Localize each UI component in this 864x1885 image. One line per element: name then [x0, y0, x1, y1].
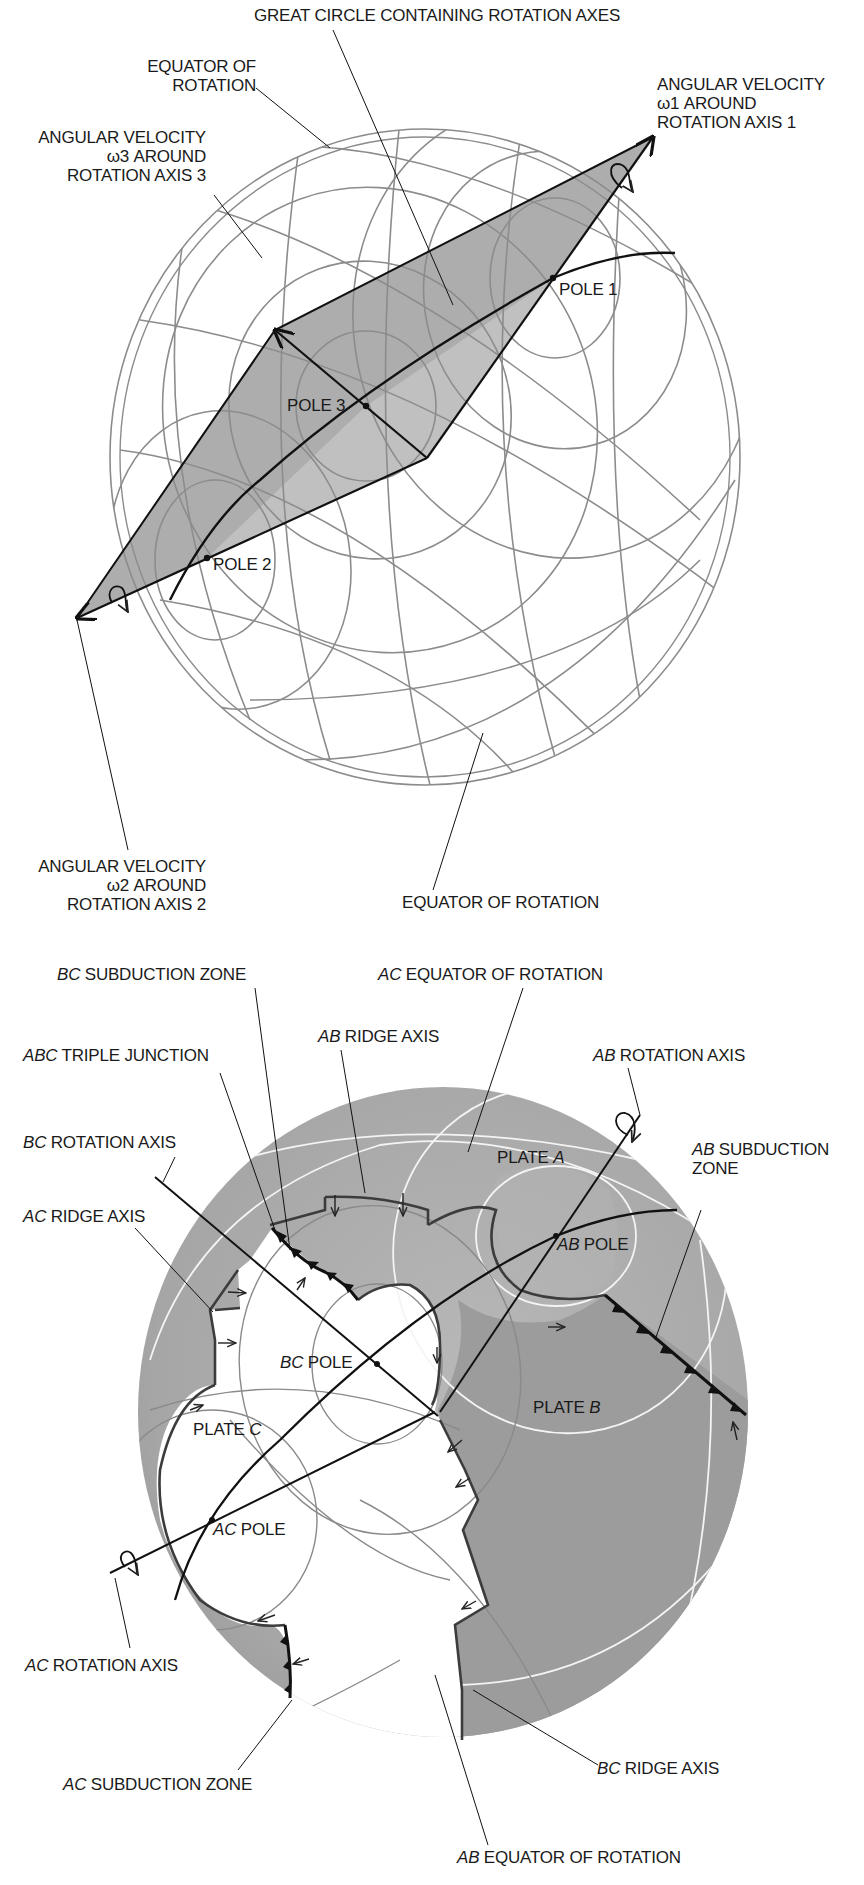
label-plate-c: PLATE C: [193, 1420, 261, 1439]
label-ab-rotation-axis: AB ROTATION AXIS: [593, 1046, 745, 1065]
label-omega1: ANGULAR VELOCITY ω1 AROUND ROTATION AXIS…: [657, 75, 825, 132]
label-abc-triple-junction: ABC TRIPLE JUNCTION: [23, 1046, 209, 1065]
label-great-circle: GREAT CIRCLE CONTAINING ROTATION AXES: [254, 6, 620, 25]
label-ac-equator-of-rotation: AC EQUATOR OF ROTATION: [378, 965, 603, 984]
label-equator-of-rotation-top: EQUATOR OF ROTATION: [118, 57, 256, 95]
label-pole2: POLE 2: [213, 555, 271, 574]
label-ab-subduction-zone: AB SUBDUCTION ZONE: [692, 1140, 829, 1178]
label-bc-rotation-axis: BC ROTATION AXIS: [23, 1133, 176, 1152]
diagram-canvas: [0, 0, 864, 1885]
label-ac-ridge-axis: AC RIDGE AXIS: [23, 1207, 145, 1226]
label-omega3: ANGULAR VELOCITY ω3 AROUND ROTATION AXIS…: [6, 128, 206, 185]
pole2-dot: [204, 555, 210, 561]
label-ac-rotation-axis: AC ROTATION AXIS: [25, 1656, 178, 1675]
label-ab-ridge-axis: AB RIDGE AXIS: [318, 1027, 439, 1046]
label-pole3: POLE 3: [287, 396, 345, 415]
label-plate-b: PLATE B: [533, 1398, 600, 1417]
label-ac-subduction-zone: AC SUBDUCTION ZONE: [63, 1775, 252, 1794]
label-equator-of-rotation-bottom: EQUATOR OF ROTATION: [402, 893, 599, 912]
label-omega2: ANGULAR VELOCITY ω2 AROUND ROTATION AXIS…: [6, 857, 206, 914]
pole3-dot: [363, 403, 369, 409]
label-ab-pole: AB POLE: [557, 1235, 628, 1254]
label-bc-ridge-axis: BC RIDGE AXIS: [597, 1759, 719, 1778]
label-bc-subduction-zone: BC SUBDUCTION ZONE: [57, 965, 246, 984]
label-bc-pole: BC POLE: [280, 1353, 352, 1372]
bottom-sphere: [107, 988, 783, 1845]
bc-pole-dot: [374, 1361, 380, 1367]
label-ac-pole: AC POLE: [213, 1520, 285, 1539]
label-plate-a: PLATE A: [497, 1148, 564, 1167]
label-ab-equator-of-rotation: AB EQUATOR OF ROTATION: [457, 1848, 681, 1867]
pole1-dot: [550, 275, 556, 281]
label-pole1: POLE 1: [559, 280, 617, 299]
